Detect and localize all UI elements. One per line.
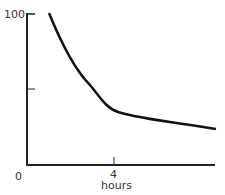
- x-axis-title: hours: [101, 180, 132, 191]
- y-tick-label-100: 100: [4, 9, 25, 20]
- origin-label: 0: [15, 171, 22, 182]
- chart-plot: [0, 0, 225, 195]
- data-curve: [49, 13, 216, 129]
